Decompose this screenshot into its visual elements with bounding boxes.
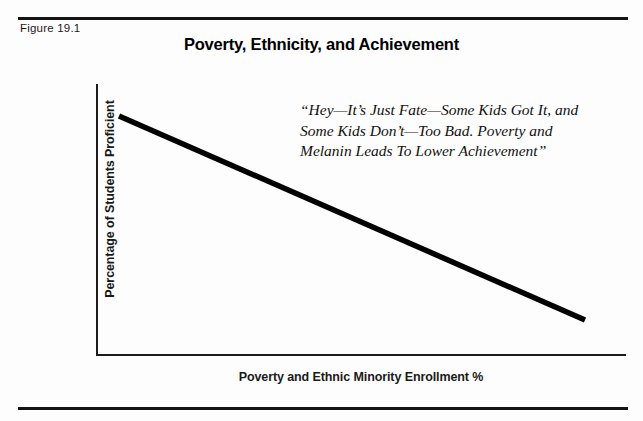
annotation-quote-line-2: Some Kids Don’t—Too Bad. Poverty and <box>300 121 576 142</box>
annotation-quote: “Hey—It’s Just Fate—Some Kids Got It, an… <box>300 100 576 162</box>
top-horizontal-rule <box>18 17 628 20</box>
plot-area: “Hey—It’s Just Fate—Some Kids Got It, an… <box>96 84 626 356</box>
annotation-quote-line-1: “Hey—It’s Just Fate—Some Kids Got It, an… <box>300 100 576 121</box>
figure-page: Figure 19.1 Poverty, Ethnicity, and Achi… <box>0 0 643 421</box>
x-axis-label: Poverty and Ethnic Minority Enrollment % <box>96 370 626 384</box>
figure-number-label: Figure 19.1 <box>20 22 80 34</box>
chart-title: Poverty, Ethnicity, and Achievement <box>0 35 643 54</box>
bottom-horizontal-rule <box>18 407 628 410</box>
annotation-quote-line-3: Melanin Leads To Lower Achievement” <box>300 141 576 162</box>
y-axis-label: Percentage of Students Proficient <box>103 69 117 329</box>
